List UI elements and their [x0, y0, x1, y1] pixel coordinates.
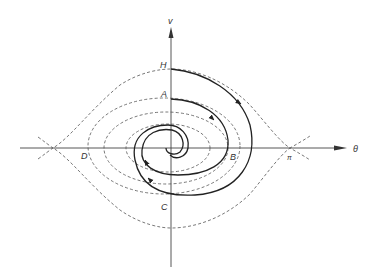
- point-label-A: A: [160, 89, 167, 99]
- separatrix: [38, 69, 310, 228]
- closed-orbits: [88, 98, 240, 194]
- orbit-outer: [88, 98, 240, 194]
- axes: [20, 27, 347, 267]
- theta-axis-label: θ: [353, 144, 358, 154]
- point-label-D: D: [81, 151, 88, 161]
- phase-portrait: v θ π H A B C D: [0, 0, 375, 280]
- point-label-C: C: [161, 202, 168, 212]
- spiral-from-H: [134, 69, 252, 195]
- damped-trajectories: [134, 69, 252, 195]
- v-axis-label: v: [168, 16, 173, 26]
- v-axis-arrow-icon: [169, 27, 174, 38]
- pi-label: π: [287, 154, 292, 161]
- theta-axis-arrow-icon: [334, 146, 347, 151]
- point-label-B: B: [230, 152, 236, 162]
- point-label-H: H: [160, 60, 167, 70]
